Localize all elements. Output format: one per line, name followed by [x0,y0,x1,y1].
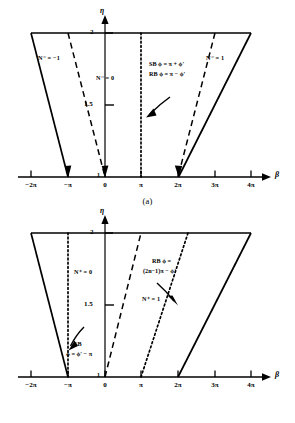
panel-a-x-axis-label: β [275,170,279,179]
panel-b-y-tick-label-2: 2 [90,228,94,236]
rb-arrow-head [168,296,178,306]
panel-b-x-tick-label--pi: −π [57,381,79,389]
panel-a-region-label-nminus-neg1: N⁻ = −1 [38,54,60,62]
panel-b-annotation-sb-formula: ϕ = ϕ' − π [66,350,92,359]
panel-b-region-label-nplus-1: N⁺ = 1 [142,295,160,303]
panel-b-x-tick-label-0: 0 [96,381,114,389]
panel-a-x-tick-label--2pi: −2π [19,181,43,189]
panel-b-y-tick-label-1.5: 1.5 [84,300,93,308]
panel-a-region-label-nminus-1: N⁻ = 1 [206,54,224,62]
panel-a-y-tick-label-2: 2 [90,28,94,36]
dashed-left-arrowhead [102,166,109,177]
panel-b-x-tick-label--2pi: −2π [19,381,43,389]
panel-a-annotation-sb: SB ϕ = π + ϕ' [149,60,184,69]
panel-b-y-axis-label: η [100,206,104,215]
panel-b-x-tick-label-4pi: 4π [241,381,261,389]
panel-a: η β 2 1.5 1 −2π −π 0 π 2π 3π 4π N⁻ = −1 … [0,0,295,212]
panel-b-y-tick-label-1: 1 [97,372,100,378]
x-axis-arrowhead [262,373,271,380]
panel-b-plot [0,205,295,423]
panel-b-x-axis-label: β [275,370,279,379]
panel-a-y-tick-label-1: 1 [97,172,100,178]
y-axis-arrowhead [101,15,108,24]
panel-a-y-tick-label-1.5: 1.5 [84,100,93,108]
panel-b-annotation-rb-title: RB ϕ = [152,257,171,266]
panel-a-x-tick-label-3pi: 3π [205,181,225,189]
panel-a-x-tick-label--pi: −π [57,181,79,189]
panel-b-x-tick-label-2pi: 2π [168,381,188,389]
x-axis-arrowhead [262,173,271,180]
curve-solid-right [178,233,251,377]
panel-a-annotation-rb: RB ϕ = π − ϕ' [149,70,185,79]
panel-b-annotation-sb-title: SB [74,340,82,349]
figure-container: η β 2 1.5 1 −2π −π 0 π 2π 3π 4π N⁻ = −1 … [0,0,295,423]
solid-left-arrowhead [65,166,72,177]
panel-a-x-tick-label-0: 0 [96,181,114,189]
panel-b-x-tick-label-3pi: 3π [205,381,225,389]
panel-b: η β 2 1.5 1 −2π −π 0 π 2π 3π 4π N⁺ = 0 N… [0,205,295,423]
curve-dotted-right [141,233,188,377]
panel-b-region-label-nplus-0: N⁺ = 0 [74,268,92,276]
panel-b-x-tick-label-pi: π [133,381,149,389]
panel-b-annotation-rb-formula: (2n−1)π − ϕ' [143,267,176,276]
curve-solid-left [31,233,68,377]
panel-a-x-tick-label-2pi: 2π [168,181,188,189]
panel-a-x-tick-label-4pi: 4π [241,181,261,189]
y-axis-arrowhead [101,215,108,224]
panel-a-y-axis-label: η [100,6,104,15]
panel-a-x-tick-label-pi: π [133,181,149,189]
panel-a-region-label-nminus-0: N⁻ = 0 [96,74,114,82]
